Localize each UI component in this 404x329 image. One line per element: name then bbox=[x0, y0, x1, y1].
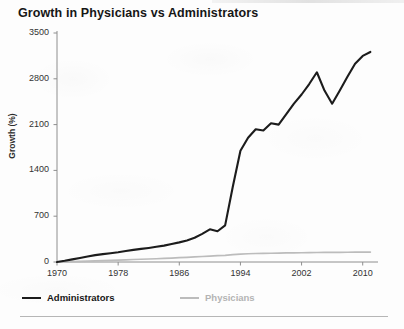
legend-item-administrators[interactable]: Administrators bbox=[22, 292, 115, 303]
x-tick-label: 2010 bbox=[343, 268, 383, 278]
y-tick-label: 0 bbox=[11, 256, 49, 266]
legend-swatch-icon bbox=[180, 297, 199, 299]
y-tick-label: 1400 bbox=[11, 164, 49, 174]
legend-label: Administrators bbox=[47, 292, 115, 303]
x-tick-label: 2002 bbox=[282, 268, 322, 278]
legend-label: Physicians bbox=[205, 292, 255, 303]
footer-divider bbox=[20, 316, 388, 317]
x-tick-label: 1986 bbox=[159, 268, 199, 278]
chart-page: Growth in Physicians vs Administrators G… bbox=[0, 0, 404, 329]
footer-source-note bbox=[20, 319, 390, 329]
y-tick-label: 3500 bbox=[11, 27, 49, 37]
y-tick-label: 2100 bbox=[11, 119, 49, 129]
legend-swatch-icon bbox=[22, 297, 41, 299]
series-line-administrators bbox=[57, 52, 370, 262]
x-tick-label: 1994 bbox=[220, 268, 260, 278]
line-chart-svg bbox=[0, 0, 404, 280]
x-tick-label: 1970 bbox=[37, 268, 77, 278]
y-tick-label: 2800 bbox=[11, 73, 49, 83]
plot-area: Growth (%) 07001400210028003500 19701978… bbox=[0, 0, 404, 280]
legend-item-physicians[interactable]: Physicians bbox=[180, 292, 255, 303]
y-axis-title: Growth (%) bbox=[7, 106, 17, 166]
chart-legend: AdministratorsPhysicians bbox=[0, 290, 404, 310]
y-tick-label: 700 bbox=[11, 210, 49, 220]
x-tick-label: 1978 bbox=[98, 268, 138, 278]
